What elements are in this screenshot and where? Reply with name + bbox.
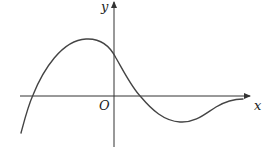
x-axis-label: x <box>254 99 261 112</box>
function-curve <box>21 39 243 133</box>
function-graph: y x O <box>0 0 274 153</box>
origin-label: O <box>99 99 110 112</box>
y-axis-label: y <box>101 0 108 13</box>
